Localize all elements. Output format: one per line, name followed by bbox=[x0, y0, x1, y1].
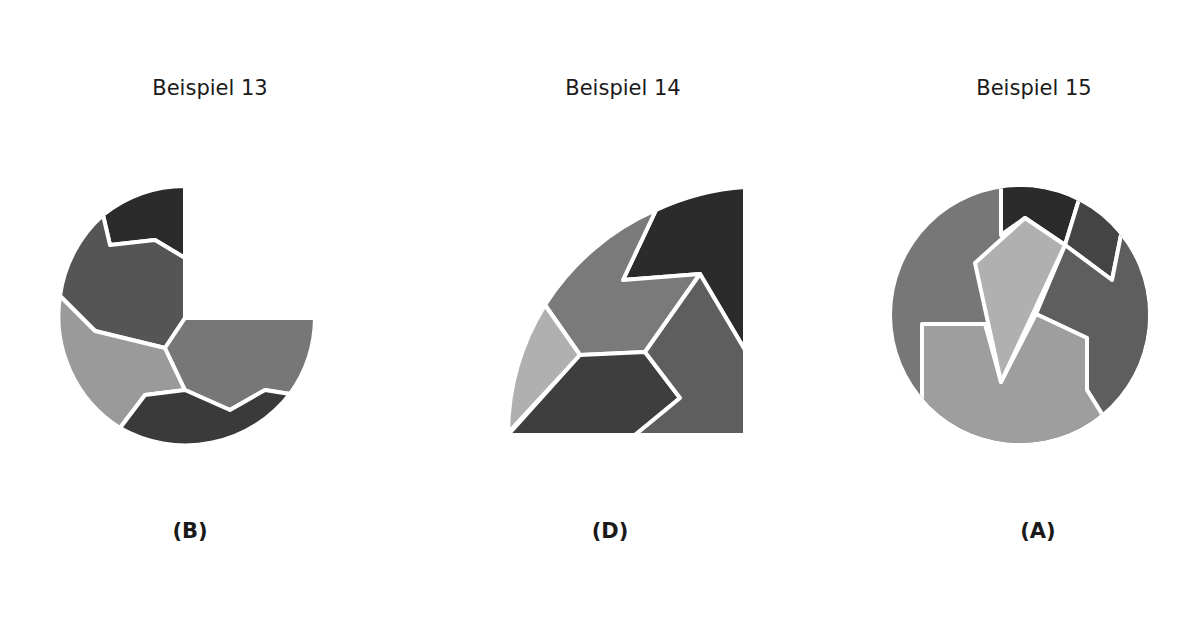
example-13-answer: (B) bbox=[130, 519, 250, 543]
example-14-answer: (D) bbox=[550, 519, 670, 543]
example-15-answer: (A) bbox=[978, 519, 1098, 543]
